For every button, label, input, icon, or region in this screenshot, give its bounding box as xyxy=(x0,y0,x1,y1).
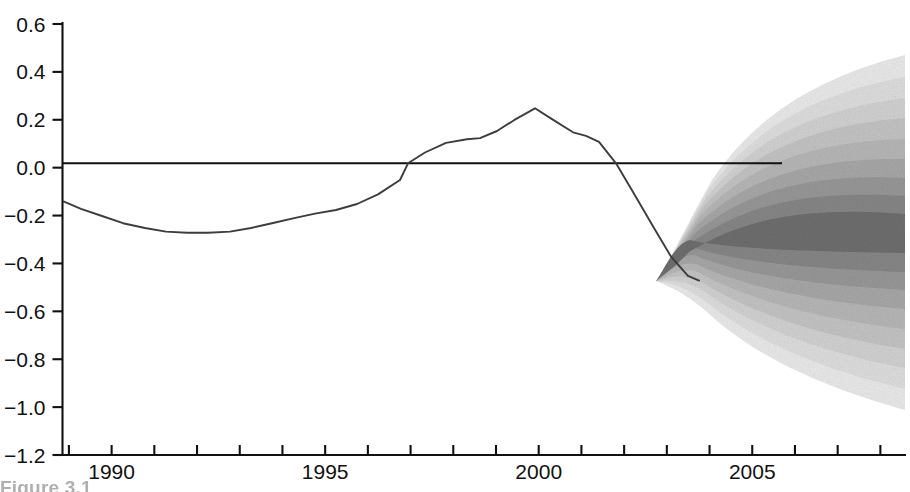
y-tick-label: −0.2 xyxy=(4,204,45,227)
y-tick-label: 0.4 xyxy=(16,60,46,83)
y-tick-label: −0.4 xyxy=(4,252,46,275)
y-tick-label: 0.2 xyxy=(16,108,45,131)
chart-canvas: 0.60.40.20.0−0.2−0.4−0.6−0.8−1.0−1.2 199… xyxy=(0,0,910,492)
y-tick-label: 0.6 xyxy=(16,13,45,36)
y-tick-label: −1.2 xyxy=(4,444,45,467)
y-tick-label: 0.0 xyxy=(16,156,45,179)
fan-chart-figure: 0.60.40.20.0−0.2−0.4−0.6−0.8−1.0−1.2 199… xyxy=(0,0,910,492)
y-tick-label: −0.6 xyxy=(4,300,45,323)
y-tick-label: −1.0 xyxy=(4,396,45,419)
y-tick-label: −0.8 xyxy=(4,348,45,371)
figure-caption-fragment: Figure 3.1 xyxy=(0,478,910,492)
